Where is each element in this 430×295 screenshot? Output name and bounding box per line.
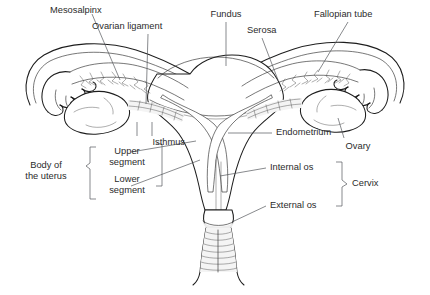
label-internal-os: Internal os [270, 162, 314, 172]
label-endometrium: Endometrium [276, 127, 332, 137]
ovary-left [64, 91, 129, 134]
label-serosa: Serosa [247, 25, 277, 35]
tube-plicae-left [80, 72, 150, 93]
bracket-body-of-uterus [86, 147, 96, 199]
label-body-of-uterus-line2: the uterus [25, 171, 67, 181]
label-lower-segment-line2: segment [109, 185, 145, 195]
bracket-cervix [336, 162, 347, 206]
label-fundus: Fundus [210, 9, 241, 19]
bracket-uterine-segments [156, 144, 162, 186]
cervix-and-vagina [193, 210, 244, 285]
label-body-of-uterus-line1: Body of [30, 160, 62, 170]
label-fallopian-tube: Fallopian tube [314, 9, 372, 19]
label-external-os: External os [270, 200, 317, 210]
uterus-anatomy-diagram: Mesosalpinx Ovarian ligament Fundus Sero… [0, 0, 430, 295]
figure-container: Mesosalpinx Ovarian ligament Fundus Sero… [0, 0, 430, 295]
label-isthmus: Isthmus [152, 137, 185, 147]
label-mesosalpinx: Mesosalpinx [50, 5, 102, 15]
label-upper-segment-line1: Upper [114, 146, 139, 156]
label-ovarian-ligament: Ovarian ligament [92, 21, 163, 31]
ovary-right [300, 89, 365, 132]
label-cervix: Cervix [352, 178, 379, 188]
label-upper-segment-line2: segment [109, 157, 145, 167]
label-lower-segment-line1: Lower [114, 174, 139, 184]
tube-plicae-right [280, 70, 350, 91]
label-ovary: Ovary [346, 141, 371, 151]
